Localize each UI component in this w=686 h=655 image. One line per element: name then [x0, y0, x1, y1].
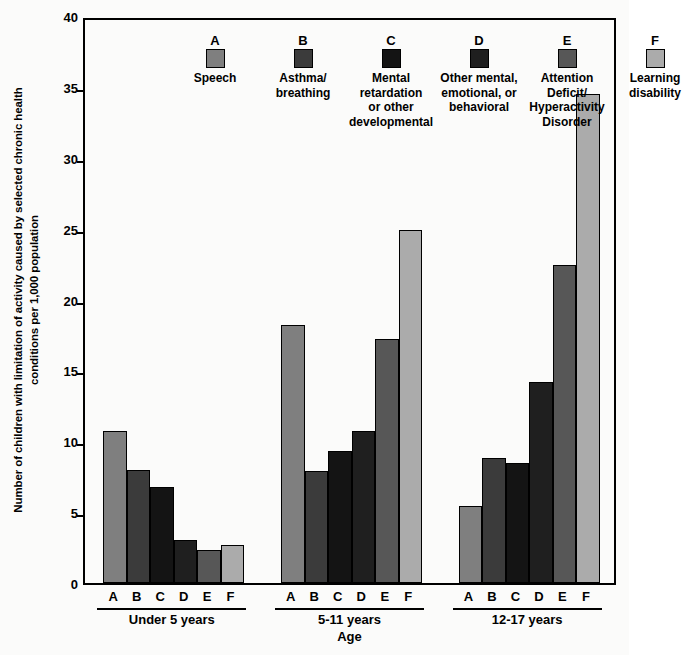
legend-key-letter: F	[651, 34, 659, 48]
bar-c-group-1	[150, 487, 174, 583]
x-axis-group-2: ABCDEF5-11 years	[269, 585, 430, 655]
x-axis-group-label: Under 5 years	[91, 612, 252, 628]
y-tick-label-10: 10	[44, 436, 78, 449]
x-tick-letter-d: D	[351, 589, 371, 604]
legend-label: Mental retardation or other developmenta…	[349, 71, 433, 129]
y-axis-title-line-2: conditions per 1,000 population	[26, 215, 42, 385]
x-tick-letter-b: B	[127, 589, 147, 604]
legend-swatch-c	[382, 49, 401, 68]
y-tick-mark-5	[77, 515, 85, 517]
x-tick-letter-c: C	[150, 589, 170, 604]
legend-swatch-f	[646, 49, 665, 68]
legend-key-letter: B	[298, 34, 307, 48]
x-axis-group-label: 12-17 years	[447, 612, 608, 628]
legend-swatch-a	[206, 49, 225, 68]
bar-d-group-1	[174, 540, 198, 583]
bar-d-group-3	[529, 382, 553, 583]
bar-f-group-3	[576, 94, 600, 583]
x-tick-letter-b: B	[304, 589, 324, 604]
legend-label: Attention Deficit/ Hyperactivity Disorde…	[529, 71, 604, 129]
bar-f-group-1	[221, 545, 245, 583]
bar-e-group-1	[197, 550, 221, 583]
legend-label: Learning disability	[629, 71, 681, 100]
legend-swatch-e	[558, 49, 577, 68]
legend-key-letter: C	[386, 34, 395, 48]
bar-f-group-2	[399, 230, 423, 583]
x-axis-series-letters: ABCDEF	[269, 589, 430, 605]
x-axis-series-letters: ABCDEF	[447, 589, 608, 605]
legend-item-a[interactable]: ASpeech	[173, 34, 257, 86]
y-axis-title-line-1: Number of children with limitation of ac…	[10, 87, 26, 512]
x-tick-letter-c: C	[505, 589, 525, 604]
plot-frame: ASpeechBAsthma/ breathingCMental retarda…	[83, 18, 616, 585]
y-tick-label-35: 35	[44, 82, 78, 95]
x-tick-letter-f: F	[398, 589, 418, 604]
x-tick-letter-e: E	[197, 589, 217, 604]
bar-a-group-1	[103, 431, 127, 583]
x-tick-letter-f: F	[221, 589, 241, 604]
legend-label: Asthma/ breathing	[276, 71, 331, 100]
x-tick-letter-e: E	[552, 589, 572, 604]
x-axis-group-rule	[97, 608, 246, 610]
x-tick-letter-a: A	[103, 589, 123, 604]
legend-key-letter: E	[563, 34, 572, 48]
legend-item-f[interactable]: FLearning disability	[613, 34, 686, 100]
y-tick-label-15: 15	[44, 365, 78, 378]
x-axis-series-letters: ABCDEF	[91, 589, 252, 605]
x-tick-letter-a: A	[458, 589, 478, 604]
legend-label: Speech	[194, 71, 237, 86]
bar-e-group-2	[375, 339, 399, 583]
legend-label: Other mental, emotional, or behavioral	[440, 71, 517, 115]
y-tick-label-25: 25	[44, 224, 78, 237]
legend-item-d[interactable]: DOther mental, emotional, or behavioral	[437, 34, 521, 115]
bar-c-group-2	[328, 451, 352, 583]
bar-b-group-2	[305, 471, 329, 583]
bar-c-group-3	[506, 463, 530, 583]
bar-d-group-2	[352, 431, 376, 583]
chart-legend: ASpeechBAsthma/ breathingCMental retarda…	[171, 34, 686, 164]
bar-b-group-1	[127, 470, 151, 583]
x-tick-letter-a: A	[281, 589, 301, 604]
y-tick-mark-10	[77, 444, 85, 446]
x-axis-group-1: ABCDEFUnder 5 years	[91, 585, 252, 655]
legend-key-letter: A	[210, 34, 219, 48]
x-axis-group-label: 5-11 years	[269, 612, 430, 628]
x-axis-group-rule	[453, 608, 602, 610]
y-tick-mark-35	[77, 90, 85, 92]
x-tick-letter-e: E	[375, 589, 395, 604]
x-tick-letter-c: C	[328, 589, 348, 604]
bar-b-group-3	[482, 458, 506, 583]
y-tick-mark-15	[77, 373, 85, 375]
y-tick-mark-30	[77, 161, 85, 163]
x-axis-title: Age	[83, 629, 616, 644]
legend-key-letter: D	[474, 34, 483, 48]
y-tick-mark-25	[77, 232, 85, 234]
bar-a-group-3	[459, 506, 483, 583]
bar-e-group-3	[553, 265, 577, 583]
x-tick-letter-f: F	[576, 589, 596, 604]
x-axis-group-3: ABCDEF12-17 years	[447, 585, 608, 655]
legend-item-c[interactable]: CMental retardation or other development…	[349, 34, 433, 129]
x-tick-letter-b: B	[482, 589, 502, 604]
x-axis: ABCDEFUnder 5 yearsABCDEF5-11 yearsABCDE…	[83, 585, 616, 655]
legend-swatch-b	[294, 49, 313, 68]
x-tick-letter-d: D	[174, 589, 194, 604]
y-tick-label-5: 5	[44, 507, 78, 520]
y-tick-label-20: 20	[44, 295, 78, 308]
bar-a-group-2	[281, 325, 305, 583]
y-tick-label-40: 40	[44, 11, 78, 24]
x-tick-letter-d: D	[529, 589, 549, 604]
legend-swatch-d	[470, 49, 489, 68]
y-tick-label-0: 0	[44, 578, 78, 591]
legend-item-e[interactable]: EAttention Deficit/ Hyperactivity Disord…	[525, 34, 609, 129]
y-axis-tick-labels: 4035302520151050	[44, 0, 78, 600]
legend-item-b[interactable]: BAsthma/ breathing	[261, 34, 345, 100]
x-axis-group-rule	[275, 608, 424, 610]
y-tick-label-30: 30	[44, 153, 78, 166]
y-tick-mark-20	[77, 303, 85, 305]
